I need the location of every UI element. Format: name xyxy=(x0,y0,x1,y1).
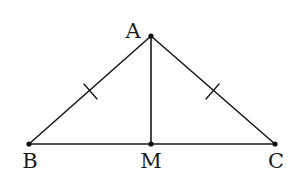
point-c xyxy=(272,141,277,146)
label-b: B xyxy=(22,149,37,173)
point-a xyxy=(148,33,153,38)
triangle-diagram: A B M C xyxy=(0,0,297,180)
label-a: A xyxy=(124,19,141,43)
label-c: C xyxy=(268,149,284,173)
label-m: M xyxy=(140,149,162,173)
point-m xyxy=(148,141,153,146)
point-b xyxy=(26,141,31,146)
